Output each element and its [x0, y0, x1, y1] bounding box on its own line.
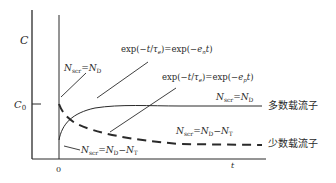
c0-label: C0 — [14, 99, 26, 112]
annotation-nscr-nd-nt-bottom: Nscr=ND−NT — [80, 145, 138, 156]
legend-minority-carrier: 少数载流子 — [268, 137, 318, 149]
annotation-nscr-nd-nt-right: Nscr=ND−NT — [175, 126, 233, 137]
legend-majority-carrier: 多数载流子 — [268, 99, 318, 111]
leader-exp-en — [97, 62, 148, 98]
leader-exp-ep — [110, 88, 176, 132]
origin-label: 0 — [56, 165, 61, 174]
annotation-exp-en: exp(−t/τe)=exp(−ent) — [121, 44, 212, 55]
carrier-concentration-diagram: C C0 0 t Nscr=ND exp(−t/τe)=exp(−ent) ex… — [0, 0, 336, 183]
annotation-nscr-nd-top: Nscr=ND — [63, 63, 102, 74]
annotation-nscr-nd-right: Nscr=ND — [215, 92, 254, 103]
minority-carrier-curve — [59, 104, 262, 145]
y-axis-label: C — [20, 34, 29, 47]
annotation-exp-ep: exp(−t/τe)=exp(−ept) — [162, 72, 253, 84]
leader-nscr-nd-nt-bottom — [64, 146, 80, 150]
leader-nscr-nd-top — [61, 73, 86, 97]
x-axis-label: t — [231, 161, 235, 170]
